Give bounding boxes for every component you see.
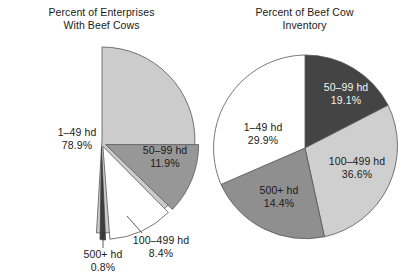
pie-label-100-499-inventory: 100–499 hd 36.6% (309, 155, 405, 180)
pie-label-1-49-inventory: 1–49 hd 29.9% (215, 121, 311, 146)
pie-label-1-49-enterprises: 1–49 hd 78.9% (22, 126, 132, 151)
pie-label-50-99-enterprises: 50–99 hd 11.9% (122, 144, 208, 169)
chart-panel-inventory: Percent of Beef Cow Inventory 1–49 hd 29… (203, 0, 406, 272)
pie-label-50-99-inventory: 50–99 hd 19.1% (303, 81, 389, 106)
pie-chart-figure: Percent of Enterprises With Beef Cows 1–… (0, 0, 406, 272)
pie-label-500-plus-enterprises: 500+ hd 0.8% (61, 248, 145, 272)
chart-panel-enterprises: Percent of Enterprises With Beef Cows 1–… (0, 0, 203, 272)
pie-label-500-plus-inventory: 500+ hd 14.4% (235, 184, 323, 209)
